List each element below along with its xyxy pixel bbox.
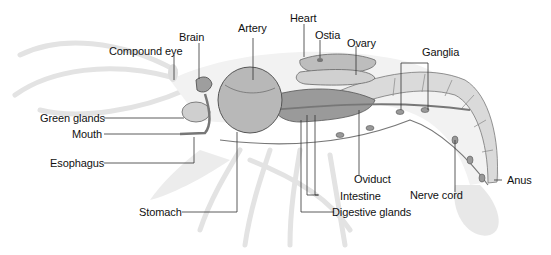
label-green-glands: Green glands bbox=[40, 112, 105, 124]
compound-eye-shape bbox=[168, 64, 178, 82]
label-heart: Heart bbox=[290, 12, 316, 24]
label-mouth: Mouth bbox=[72, 128, 102, 140]
label-brain: Brain bbox=[179, 31, 204, 43]
label-compound-eye: Compound eye bbox=[109, 45, 182, 57]
ovary-shape bbox=[296, 70, 375, 86]
label-ganglia: Ganglia bbox=[422, 46, 459, 58]
crayfish-anatomy-diagram: Heart Brain Artery Ostia Ovary Compound … bbox=[0, 0, 551, 255]
label-oviduct: Oviduct bbox=[354, 173, 391, 185]
label-ovary: Ovary bbox=[347, 37, 376, 49]
green-glands-shape bbox=[182, 102, 210, 122]
label-nerve-cord: Nerve cord bbox=[410, 189, 463, 201]
label-esophagus: Esophagus bbox=[50, 157, 104, 169]
label-stomach: Stomach bbox=[139, 206, 182, 218]
label-digestive-glands: Digestive glands bbox=[332, 206, 411, 218]
label-artery: Artery bbox=[238, 22, 267, 34]
ostia-shape bbox=[317, 58, 323, 62]
stomach-shape bbox=[218, 67, 282, 133]
label-intestine: Intestine bbox=[340, 190, 381, 202]
label-ostia: Ostia bbox=[315, 29, 340, 41]
label-anus: Anus bbox=[507, 174, 532, 186]
